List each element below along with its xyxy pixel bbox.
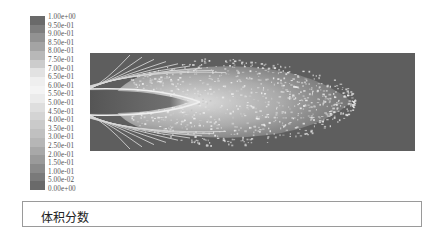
colorbar-tick-label: 3.50e-01 [48, 125, 76, 133]
colorbar-labels: 1.00e+009.50e-019.00e-018.50e-018.00e-01… [48, 13, 76, 193]
colorbar-segment [30, 129, 45, 138]
colorbar-tick-label: 7.00e-01 [48, 65, 76, 73]
colorbar-segment [30, 77, 45, 86]
colorbar-segment [30, 33, 45, 42]
colorbar-tick-label: 6.50e-01 [48, 73, 76, 81]
colorbar-segment [30, 86, 45, 95]
colorbar [30, 16, 45, 190]
colorbar-tick-label: 9.00e-01 [48, 30, 76, 38]
colorbar-segment [30, 94, 45, 103]
colorbar-segment [30, 155, 45, 164]
colorbar-tick-label: 5.00e-02 [48, 176, 76, 184]
colorbar-tick-label: 1.00e+00 [48, 13, 76, 21]
colorbar-tick-label: 8.00e-01 [48, 47, 76, 55]
colorbar-segment [30, 42, 45, 51]
colorbar-tick-label: 1.00e-01 [48, 168, 76, 176]
contour-plot [90, 53, 415, 151]
colorbar-tick-label: 7.50e-01 [48, 56, 76, 64]
colorbar-tick-label: 0.00e+00 [48, 185, 76, 193]
spray-contour [90, 53, 415, 151]
colorbar-segment [30, 147, 45, 156]
colorbar-segment [30, 51, 45, 60]
colorbar-tick-label: 9.50e-01 [48, 22, 76, 30]
colorbar-segment [30, 68, 45, 77]
colorbar-segment [30, 103, 45, 112]
colorbar-tick-label: 8.50e-01 [48, 39, 76, 47]
colorbar-segment [30, 138, 45, 147]
colorbar-tick-label: 3.00e-01 [48, 133, 76, 141]
colorbar-tick-label: 2.50e-01 [48, 142, 76, 150]
colorbar-segment [30, 25, 45, 34]
colorbar-segment [30, 60, 45, 69]
colorbar-segment [30, 16, 45, 25]
colorbar-segment [30, 112, 45, 121]
colorbar-segment [30, 164, 45, 173]
colorbar-tick-label: 5.50e-01 [48, 90, 76, 98]
colorbar-segment [30, 120, 45, 129]
colorbar-segment [30, 173, 45, 182]
colorbar-tick-label: 1.50e-01 [48, 159, 76, 167]
caption-box: 体积分数 [22, 201, 422, 227]
caption-text: 体积分数 [41, 208, 89, 225]
colorbar-tick-label: 4.50e-01 [48, 108, 76, 116]
colorbar-segment [30, 181, 45, 190]
colorbar-tick-label: 6.00e-01 [48, 82, 76, 90]
colorbar-tick-label: 5.00e-01 [48, 99, 76, 107]
colorbar-tick-label: 2.00e-01 [48, 151, 76, 159]
colorbar-tick-label: 4.00e-01 [48, 116, 76, 124]
